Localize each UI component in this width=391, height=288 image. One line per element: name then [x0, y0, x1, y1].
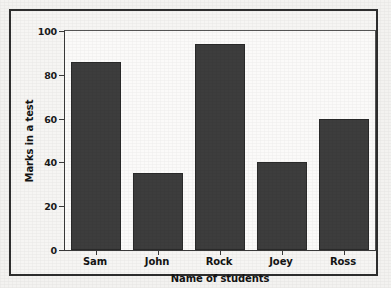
- y-label-100: 100: [38, 26, 57, 37]
- y-tick-60: [59, 119, 65, 120]
- x-label-rock: Rock: [206, 256, 233, 267]
- y-label-80: 80: [44, 69, 57, 80]
- y-label-40: 40: [44, 157, 57, 168]
- x-tick-john: [158, 250, 159, 255]
- y-tick-100: [59, 31, 65, 32]
- y-tick-40: [59, 162, 65, 163]
- y-label-60: 60: [44, 113, 57, 124]
- x-tick-sam: [96, 250, 97, 255]
- x-label-sam: Sam: [83, 256, 107, 267]
- bar-joey: [257, 162, 307, 250]
- y-axis-title: Marks in a test: [24, 100, 35, 183]
- chart-page: Marks in a test 020406080100 Name of stu…: [0, 0, 391, 288]
- plot-area: 020406080100: [64, 30, 376, 251]
- bar-sam: [71, 62, 121, 250]
- bar-ross: [319, 119, 369, 250]
- bar-john: [133, 173, 183, 250]
- y-tick-80: [59, 75, 65, 76]
- bar-rock: [195, 44, 245, 250]
- x-label-joey: Joey: [269, 256, 293, 267]
- bars-layer: [65, 31, 375, 250]
- y-tick-0: [59, 250, 65, 251]
- y-tick-20: [59, 206, 65, 207]
- x-tick-rock: [220, 250, 221, 255]
- x-label-ross: Ross: [330, 256, 356, 267]
- x-label-john: John: [145, 256, 169, 267]
- x-tick-ross: [344, 250, 345, 255]
- y-label-0: 0: [51, 245, 57, 256]
- figure-frame: Marks in a test 020406080100 Name of stu…: [9, 9, 378, 276]
- y-label-20: 20: [44, 201, 57, 212]
- x-tick-joey: [282, 250, 283, 255]
- x-axis-title: Name of students: [64, 273, 376, 284]
